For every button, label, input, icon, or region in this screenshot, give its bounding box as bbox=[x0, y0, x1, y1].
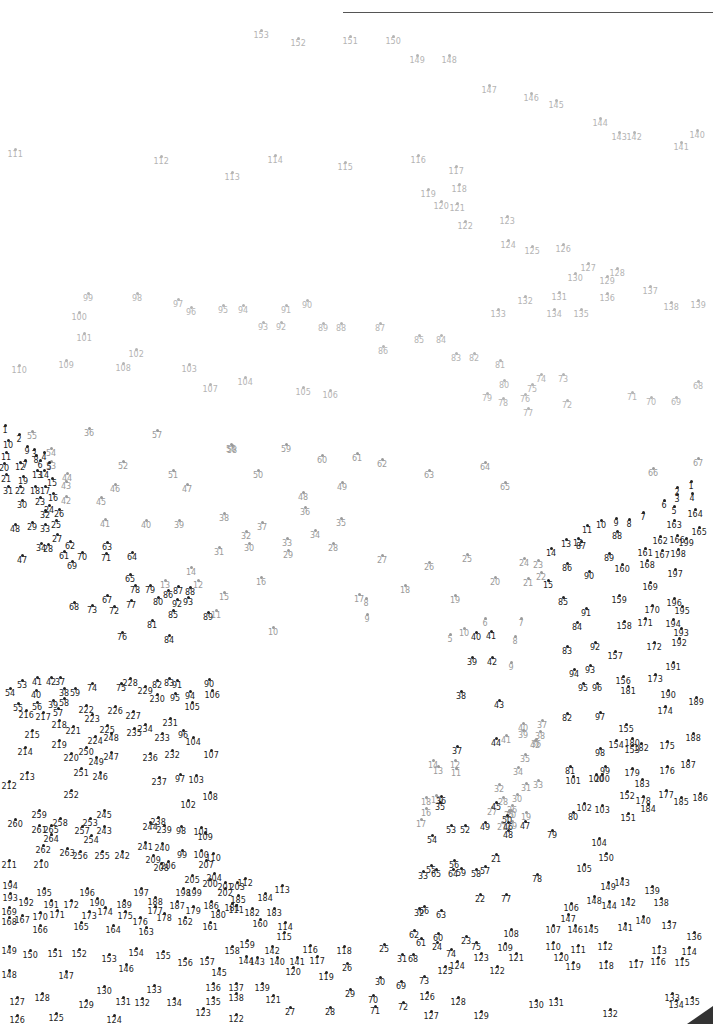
dot-number: 161 bbox=[638, 550, 653, 558]
dot-number: 17 bbox=[40, 488, 50, 496]
dot-number: 186 bbox=[693, 795, 708, 803]
dot-number: 65 bbox=[431, 871, 441, 879]
dot-number: 34 bbox=[513, 769, 523, 777]
dot-number: 28 bbox=[328, 545, 338, 553]
dot-number: 62 bbox=[65, 543, 75, 551]
dot-number: 92 bbox=[276, 324, 286, 332]
dot-number: 103 bbox=[182, 366, 197, 374]
dot-number: 159 bbox=[612, 597, 627, 605]
dot-number: 50 bbox=[253, 472, 263, 480]
dot-number: 215 bbox=[25, 732, 40, 740]
dot-number: 31 bbox=[214, 549, 224, 557]
dot-number: 69 bbox=[67, 563, 77, 571]
dot-number: 257 bbox=[75, 828, 90, 836]
dot-number: 107 bbox=[203, 386, 218, 394]
dot-number: 84 bbox=[572, 624, 582, 632]
page-corner-decoration bbox=[687, 1006, 713, 1024]
dot-number: 27 bbox=[377, 557, 387, 565]
dot-to-dot-page: Dot to Dot 15315215115014914814714614514… bbox=[0, 0, 713, 1024]
dot-number: 254 bbox=[84, 837, 99, 845]
dot-number: 67 bbox=[693, 460, 703, 468]
dot-number: 148 bbox=[442, 57, 457, 65]
dot-number: 72 bbox=[109, 608, 119, 616]
dot-number: 164 bbox=[106, 927, 121, 935]
dot-number: 71 bbox=[370, 1008, 380, 1016]
page-header: Dot to Dot bbox=[343, 0, 713, 13]
dot-number: 154 bbox=[609, 742, 624, 750]
dot-number: 119 bbox=[319, 974, 334, 982]
dot-number: 14 bbox=[186, 569, 196, 577]
dot-number: 248 bbox=[104, 735, 119, 743]
dot-number: 103 bbox=[189, 777, 204, 785]
dot-number: 37 bbox=[257, 524, 267, 532]
dot-number: 142 bbox=[265, 948, 280, 956]
dot-number: 197 bbox=[668, 571, 683, 579]
dot-number: 172 bbox=[647, 644, 662, 652]
dot-number: 49 bbox=[337, 484, 347, 492]
dot-number: 139 bbox=[645, 888, 660, 896]
dot-number: 27 bbox=[285, 1009, 295, 1017]
dot-number: 102 bbox=[129, 351, 144, 359]
dot-number: 124 bbox=[501, 242, 516, 250]
dot-number: 85 bbox=[414, 337, 424, 345]
dot-number: 68 bbox=[69, 604, 79, 612]
dot-number: 95 bbox=[218, 307, 228, 315]
dot-number: 183 bbox=[267, 910, 282, 918]
dot-number: 220 bbox=[64, 755, 79, 763]
dot-number: 147 bbox=[482, 87, 497, 95]
dot-number: 94 bbox=[238, 307, 248, 315]
dot-number: 17 bbox=[416, 821, 426, 829]
dot-number: 237 bbox=[152, 779, 167, 787]
dot-number: 118 bbox=[337, 948, 352, 956]
dot-number: 118 bbox=[452, 186, 467, 194]
dot-number: 172 bbox=[64, 902, 79, 910]
dot-number: 150 bbox=[23, 952, 38, 960]
dot-number: 37 bbox=[55, 679, 65, 687]
dot-number: 262 bbox=[36, 847, 51, 855]
dot-number: 112 bbox=[598, 944, 613, 952]
dot-number: 64 bbox=[448, 871, 458, 879]
dot-number: 11 bbox=[582, 527, 592, 535]
dot-number: 74 bbox=[446, 951, 456, 959]
dot-number: 228 bbox=[123, 680, 138, 688]
dot-number: 89 bbox=[604, 555, 614, 563]
dot-number: 141 bbox=[674, 144, 689, 152]
dot-number: 179 bbox=[186, 908, 201, 916]
dot-number: 100 bbox=[72, 314, 87, 322]
dot-number: 199 bbox=[187, 890, 202, 898]
dot-number: 42 bbox=[530, 742, 540, 750]
dot-number: 159 bbox=[240, 942, 255, 950]
dot-number: 5 bbox=[672, 508, 677, 516]
dot-number: 151 bbox=[621, 815, 636, 823]
dot-number: 66 bbox=[419, 908, 429, 916]
dot-number: 199 bbox=[679, 540, 694, 548]
dot-number: 47 bbox=[520, 823, 530, 831]
dot-number: 265 bbox=[44, 827, 59, 835]
dot-number: 45 bbox=[96, 499, 106, 507]
dot-number: 43 bbox=[61, 483, 71, 491]
dot-number: 163 bbox=[139, 929, 154, 937]
dot-number: 8 bbox=[513, 638, 518, 646]
dot-number: 263 bbox=[60, 850, 75, 858]
dot-number: 8 bbox=[34, 457, 39, 465]
dot-number: 101 bbox=[566, 778, 581, 786]
dot-number: 157 bbox=[200, 959, 215, 967]
dot-number: 40 bbox=[471, 634, 481, 642]
dot-number: 131 bbox=[552, 294, 567, 302]
dot-number: 71 bbox=[627, 394, 637, 402]
dot-number: 244 bbox=[143, 824, 158, 832]
dot-number: 74 bbox=[87, 685, 97, 693]
dot-number: 182 bbox=[245, 910, 260, 918]
dot-number: 191 bbox=[666, 664, 681, 672]
dot-number: 8 bbox=[364, 600, 369, 608]
dot-number: 116 bbox=[411, 157, 426, 165]
dot-number: 77 bbox=[126, 602, 136, 610]
dot-number: 92 bbox=[172, 601, 182, 609]
dot-number: 132 bbox=[603, 1011, 618, 1019]
dot-number: 77 bbox=[501, 896, 511, 904]
dot-number: 128 bbox=[451, 999, 466, 1007]
dot-number: 139 bbox=[691, 302, 706, 310]
dot-number: 22 bbox=[15, 488, 25, 496]
dot-number: 227 bbox=[126, 713, 141, 721]
dot-number: 146 bbox=[568, 927, 583, 935]
